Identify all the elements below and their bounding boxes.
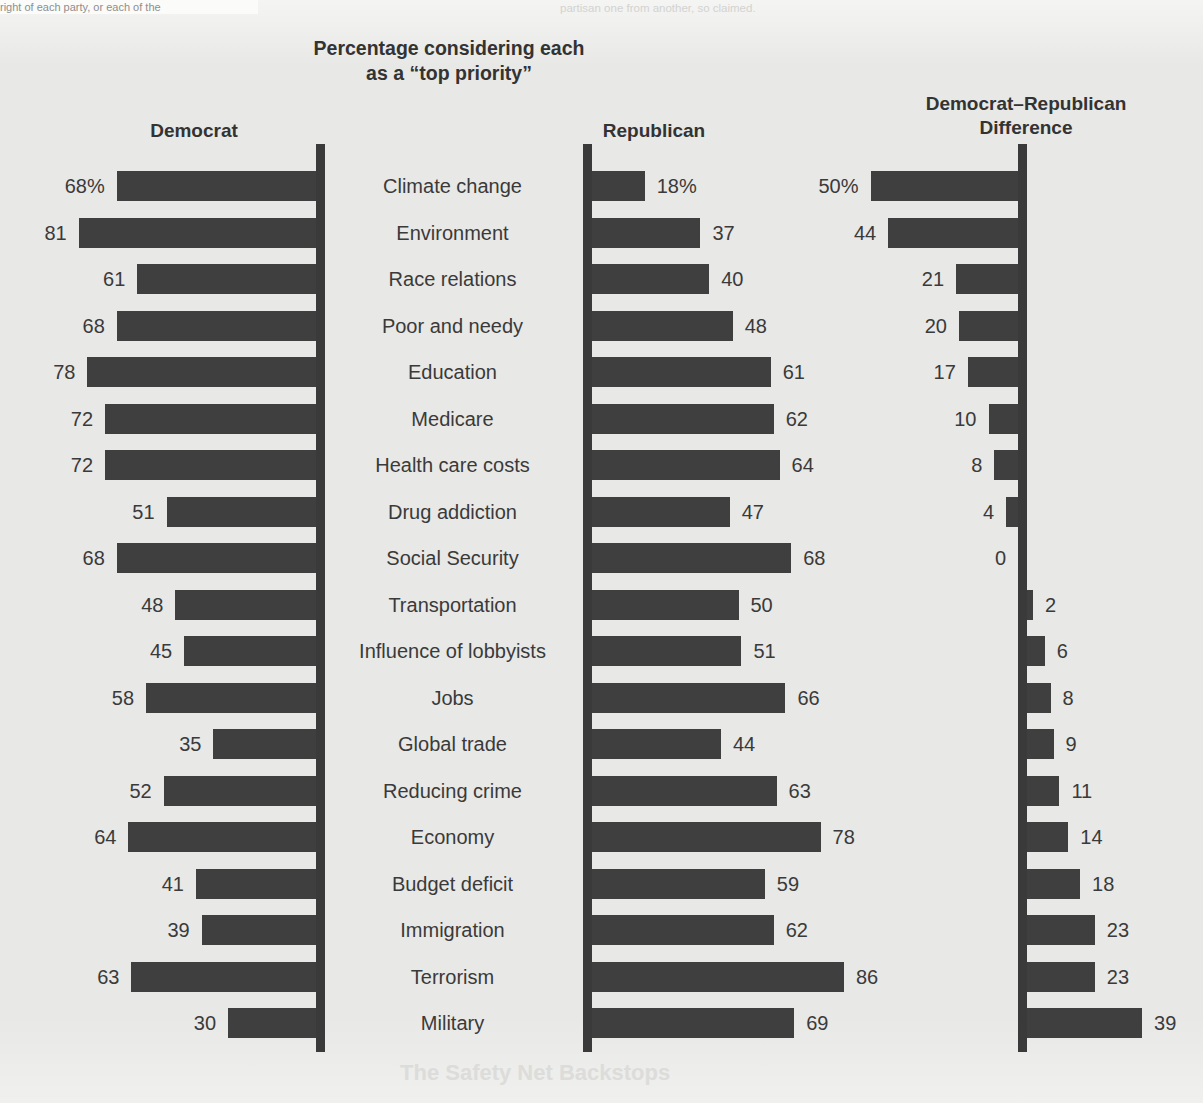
value-label-democrat: 30 [194,1008,216,1038]
value-label-republican: 86 [856,962,878,992]
value-label-difference: 11 [1071,776,1092,806]
value-label-difference: 23 [1107,915,1129,945]
value-label-democrat: 35 [179,729,201,759]
value-label-democrat: 48 [141,590,163,620]
bar-difference-republican-lead [1027,822,1068,852]
bar-republican [592,1008,794,1038]
value-label-democrat: 68 [83,311,105,341]
bar-democrat [117,171,316,201]
bar-democrat [196,869,316,899]
category-label: Transportation [330,590,575,620]
bar-democrat [117,311,316,341]
value-label-democrat: 64 [94,822,116,852]
value-label-democrat: 81 [44,218,66,248]
value-label-democrat: 78 [53,357,75,387]
bar-republican [592,543,791,573]
bar-republican [592,264,709,294]
chart-row: 81Environment3744 [0,210,1203,256]
chart-row: 72Medicare6210 [0,396,1203,442]
chart-row: 63Terrorism8623 [0,954,1203,1000]
category-label: Social Security [330,543,575,573]
category-label: Health care costs [330,450,575,480]
category-label: Global trade [330,729,575,759]
value-label-democrat: 58 [112,683,134,713]
bar-democrat [175,590,316,620]
value-label-democrat: 72 [71,404,93,434]
value-label-difference: 50% [818,171,858,201]
chart-row: 61Race relations4021 [0,256,1203,302]
bar-difference-republican-lead [1027,729,1054,759]
value-label-republican: 48 [745,311,767,341]
value-label-democrat: 52 [129,776,151,806]
bar-democrat [228,1008,316,1038]
chart-row: 30Military6939 [0,1000,1203,1046]
chart-row: 52Reducing crime6311 [0,768,1203,814]
value-label-democrat: 41 [162,869,184,899]
value-label-difference: 23 [1107,962,1129,992]
bar-difference-republican-lead [1027,590,1033,620]
chart-row: 41Budget deficit5918 [0,861,1203,907]
bar-republican [592,869,765,899]
chart-row: 39Immigration6223 [0,907,1203,953]
chart-row: 78Education6117 [0,349,1203,395]
value-label-republican: 63 [789,776,811,806]
value-label-difference: 0 [995,543,1006,573]
bar-democrat [184,636,316,666]
bar-democrat [164,776,316,806]
bar-democrat [117,543,316,573]
value-label-democrat: 63 [97,962,119,992]
value-label-republican: 69 [806,1008,828,1038]
chart-row: 58Jobs668 [0,675,1203,721]
value-label-republican: 40 [721,264,743,294]
value-label-democrat: 51 [132,497,154,527]
bar-democrat [87,357,316,387]
bar-difference-republican-lead [1027,915,1095,945]
bar-chart-plot-area: 68%Climate change18%50%81Environment3744… [0,0,1203,1103]
bar-democrat [131,962,316,992]
bar-democrat [137,264,316,294]
value-label-difference: 18 [1092,869,1114,899]
bar-difference-democrat-lead [888,218,1018,248]
value-label-difference: 10 [954,404,976,434]
chart-row: 64Economy7814 [0,814,1203,860]
bar-difference-republican-lead [1027,962,1095,992]
bar-republican [592,171,645,201]
value-label-republican: 59 [777,869,799,899]
chart-row: 48Transportation502 [0,582,1203,628]
value-label-difference: 20 [925,311,947,341]
bar-democrat [146,683,316,713]
category-label: Environment [330,218,575,248]
value-label-republican: 44 [733,729,755,759]
value-label-difference: 39 [1154,1008,1176,1038]
bar-republican [592,636,741,666]
value-label-republican: 51 [753,636,775,666]
bar-difference-democrat-lead [994,450,1018,480]
value-label-republican: 64 [792,450,814,480]
chart-row: 35Global trade449 [0,721,1203,767]
category-label: Education [330,357,575,387]
bar-difference-democrat-lead [1006,497,1018,527]
bar-democrat [105,404,316,434]
bar-republican [592,822,821,852]
value-label-democrat: 68% [65,171,105,201]
value-label-difference: 17 [934,357,956,387]
bar-democrat [128,822,316,852]
category-label: Terrorism [330,962,575,992]
bar-republican [592,404,774,434]
chart-row: 68%Climate change18%50% [0,163,1203,209]
bar-difference-democrat-lead [956,264,1018,294]
bar-democrat [202,915,316,945]
value-label-democrat: 39 [167,915,189,945]
category-label: Immigration [330,915,575,945]
category-label: Medicare [330,404,575,434]
value-label-difference: 14 [1080,822,1102,852]
value-label-difference: 9 [1066,729,1077,759]
bar-difference-republican-lead [1027,683,1051,713]
bar-republican [592,497,730,527]
bar-difference-republican-lead [1027,776,1059,806]
bar-republican [592,776,777,806]
bar-democrat [105,450,316,480]
value-label-difference: 44 [854,218,876,248]
bar-republican [592,218,700,248]
category-label: Poor and needy [330,311,575,341]
